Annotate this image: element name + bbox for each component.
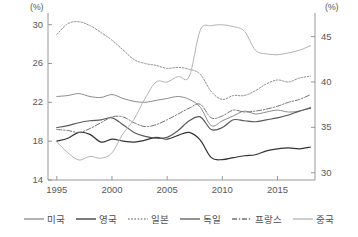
legend-line-swatch-icon xyxy=(180,215,200,223)
line-chart: (%) (%) 1418222630 30354045 199520002005… xyxy=(0,0,358,237)
legend-line-swatch-icon xyxy=(293,215,313,223)
right-tick-45: 45 xyxy=(321,31,345,42)
plot-area xyxy=(0,0,358,237)
legend-label: 프랑스 xyxy=(255,212,282,226)
legend-label: 일본 xyxy=(151,212,169,226)
series-line-5 xyxy=(57,25,311,160)
legend-item-3[interactable]: 독일 xyxy=(180,212,221,226)
legend-label: 영국 xyxy=(99,212,117,226)
legend-line-swatch-icon xyxy=(232,215,252,223)
right-tick-35: 35 xyxy=(321,121,345,132)
right-tick-40: 40 xyxy=(321,76,345,87)
series-line-2 xyxy=(57,22,311,100)
legend-line-swatch-icon xyxy=(128,215,148,223)
chart-legend: 미국영국일본독일프랑스중국 xyxy=(0,212,358,226)
legend-label: 미국 xyxy=(47,212,65,226)
legend-item-5[interactable]: 중국 xyxy=(293,212,334,226)
x-tick-1995: 1995 xyxy=(40,184,74,195)
left-tick-18: 18 xyxy=(21,135,43,146)
legend-label: 중국 xyxy=(316,212,334,226)
left-tick-26: 26 xyxy=(21,57,43,68)
series-line-0 xyxy=(57,94,311,127)
right-tick-30: 30 xyxy=(321,167,345,178)
left-tick-22: 22 xyxy=(21,96,43,107)
x-tick-2000: 2000 xyxy=(95,184,129,195)
x-tick-2010: 2010 xyxy=(205,184,239,195)
legend-line-swatch-icon xyxy=(76,215,96,223)
legend-item-1[interactable]: 영국 xyxy=(76,212,117,226)
legend-line-swatch-icon xyxy=(24,215,44,223)
series-lines xyxy=(57,22,311,160)
legend-item-2[interactable]: 일본 xyxy=(128,212,169,226)
series-line-1 xyxy=(57,132,311,160)
legend-item-4[interactable]: 프랑스 xyxy=(232,212,282,226)
legend-item-0[interactable]: 미국 xyxy=(24,212,65,226)
x-tick-2005: 2005 xyxy=(150,184,184,195)
left-tick-30: 30 xyxy=(21,19,43,30)
series-line-4 xyxy=(57,95,311,133)
x-tick-2015: 2015 xyxy=(260,184,294,195)
legend-label: 독일 xyxy=(203,212,221,226)
